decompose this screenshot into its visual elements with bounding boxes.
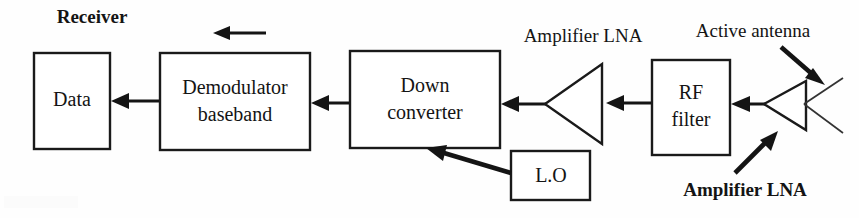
arrow-lna-to-downconverter	[501, 96, 548, 112]
receiver-block-diagram: Receiver Data Demodulator baseband	[0, 0, 859, 218]
antenna-wires	[804, 78, 843, 133]
label-amplifier-lna-antenna: Amplifier LNA	[683, 179, 807, 200]
amplifier-lna-chain-symbol	[545, 64, 602, 144]
block-rf-filter-label-line1: RF	[679, 81, 703, 103]
arrow-rffilter-to-lna	[606, 95, 652, 111]
block-down-converter-label-line2: converter	[387, 101, 463, 123]
block-rf-filter: RF filter	[652, 60, 730, 155]
pointer-amplifier-lna-antenna	[735, 131, 778, 173]
block-data-label: Data	[53, 88, 91, 110]
arrow-downconverter-to-demodulator	[311, 95, 350, 111]
block-rf-filter-label-line2: filter	[672, 108, 711, 130]
block-demodulator-label-line2: baseband	[198, 103, 272, 125]
label-active-antenna: Active antenna	[696, 20, 811, 41]
scan-artifact	[4, 196, 78, 208]
block-data: Data	[34, 53, 110, 149]
signal-direction-arrow	[213, 26, 266, 40]
block-down-converter: Down converter	[350, 51, 500, 148]
block-down-converter-label-line1: Down	[401, 74, 450, 96]
block-demodulator-baseband: Demodulator baseband	[160, 53, 310, 150]
pointer-active-antenna	[781, 47, 825, 85]
block-demodulator-label-line1: Demodulator	[182, 76, 288, 98]
block-local-oscillator-label: L.O	[535, 164, 567, 186]
diagram-canvas: Receiver Data Demodulator baseband	[0, 0, 859, 218]
arrow-demodulator-to-data	[111, 93, 160, 109]
label-amplifier-lna-chain: Amplifier LNA	[524, 25, 643, 46]
block-local-oscillator: L.O	[511, 151, 590, 200]
section-title-receiver: Receiver	[57, 6, 128, 27]
active-antenna-amplifier-symbol	[764, 81, 806, 130]
